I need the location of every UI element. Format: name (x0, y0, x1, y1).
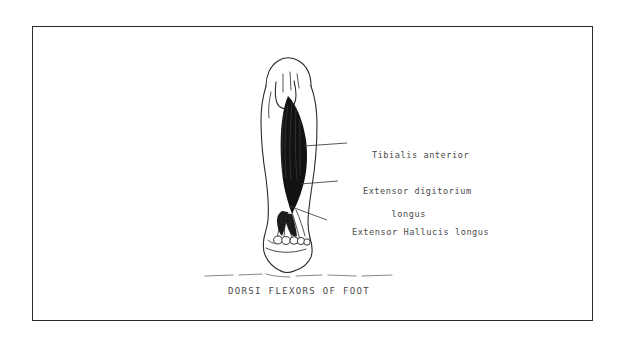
label-tibialis-anterior: Tibialis anterior (349, 138, 469, 173)
figure-caption: DORSI FLEXORS OF FOOT (228, 286, 370, 296)
figure-page: Tibialis anterior Extensor digitorium lo… (0, 0, 626, 343)
label-extensor-hallucis-line-1: Extensor Hallucis longus (352, 227, 489, 237)
label-tibialis-anterior-line-1: Tibialis anterior (372, 150, 469, 160)
label-extensor-hallucis-longus: Extensor Hallucis longus (329, 215, 489, 250)
figure-frame-border (32, 26, 593, 321)
label-extensor-digitorium-line-1: Extensor digitorium (363, 186, 472, 196)
